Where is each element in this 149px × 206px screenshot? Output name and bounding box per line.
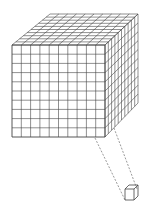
unit-cube-edge [125,185,129,189]
projection-dashed-line [95,138,125,200]
projection-dashed-line [114,128,137,189]
unit-cube [125,185,138,200]
diagram-canvas [0,0,149,206]
cube-diagram [0,0,149,206]
unit-cube-edge [134,185,138,189]
large-cube [12,14,138,137]
unit-cube-edge [134,196,138,200]
